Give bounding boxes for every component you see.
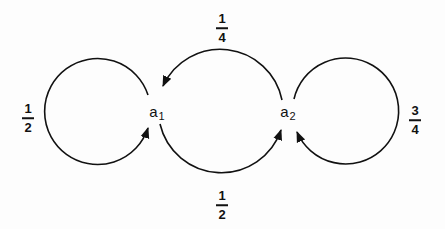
edge-label-a1-self: 1 2 bbox=[22, 102, 34, 134]
fraction-numerator: 1 bbox=[216, 12, 227, 25]
fraction-denominator: 4 bbox=[216, 31, 227, 44]
node-a2-subscript: 2 bbox=[290, 110, 296, 122]
diagram-canvas: a1 a2 1 2 1 4 1 2 3 4 bbox=[0, 0, 445, 229]
node-a1: a1 bbox=[149, 104, 164, 122]
edge-a1-self-loop bbox=[45, 59, 148, 165]
edge-label-a1-to-a2: 1 2 bbox=[216, 189, 228, 221]
fraction-bar bbox=[216, 204, 228, 206]
edge-a1-to-a2 bbox=[160, 124, 281, 173]
fraction-bar bbox=[409, 119, 421, 121]
node-a1-subscript: 1 bbox=[159, 110, 165, 122]
fraction-numerator: 1 bbox=[22, 102, 33, 115]
edge-a2-to-a1 bbox=[163, 49, 282, 100]
edge-label-a2-self: 3 4 bbox=[409, 104, 421, 136]
fraction-bar bbox=[216, 27, 228, 29]
fraction-bar bbox=[22, 117, 34, 119]
fraction-denominator: 2 bbox=[216, 208, 227, 221]
node-a2-letter: a bbox=[280, 103, 288, 120]
edge-a2-self-loop bbox=[294, 58, 399, 164]
fraction-numerator: 1 bbox=[216, 189, 227, 202]
fraction-numerator: 3 bbox=[409, 104, 420, 117]
node-a2: a2 bbox=[280, 104, 295, 122]
node-a1-letter: a bbox=[149, 103, 157, 120]
fraction-denominator: 2 bbox=[22, 121, 33, 134]
fraction-denominator: 4 bbox=[409, 123, 420, 136]
edge-label-a2-to-a1: 1 4 bbox=[216, 12, 228, 44]
